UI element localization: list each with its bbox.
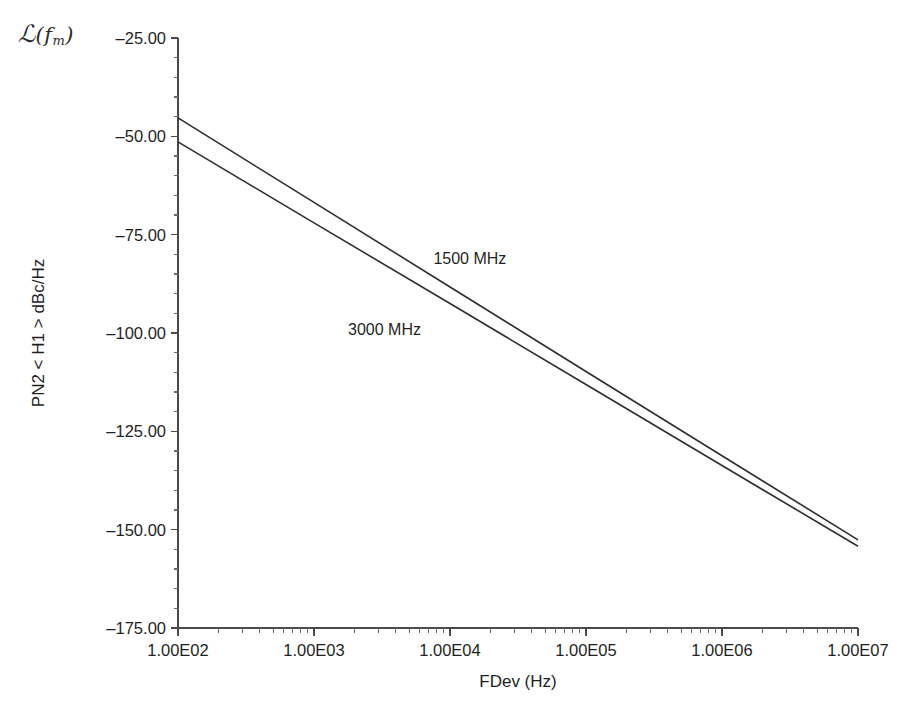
x-tick-label: 1.00E07 bbox=[827, 641, 888, 659]
y-tick-label: –50.00 bbox=[116, 127, 166, 145]
curve-annotations: 1500 MHz3000 MHz bbox=[348, 250, 506, 338]
y-tick-label: –150.00 bbox=[106, 521, 166, 539]
x-tick-label: 1.00E02 bbox=[147, 641, 208, 659]
series-group bbox=[178, 118, 858, 546]
x-tick-label: 1.00E04 bbox=[419, 641, 480, 659]
x-tick-label: 1.00E06 bbox=[691, 641, 752, 659]
y-tick-label: –75.00 bbox=[116, 226, 166, 244]
axis-spines bbox=[178, 38, 858, 628]
y-tick-label: –175.00 bbox=[106, 619, 166, 637]
axes-group: –25.00–50.00–75.00–100.00–125.00–150.00–… bbox=[106, 29, 888, 659]
page-scan-artifact bbox=[300, 690, 860, 702]
curve-label: 1500 MHz bbox=[433, 250, 506, 267]
y-tick-label: –25.00 bbox=[116, 29, 166, 47]
x-tick-label: 1.00E03 bbox=[283, 641, 344, 659]
x-tick-label: 1.00E05 bbox=[555, 641, 616, 659]
y-tick-label: –100.00 bbox=[106, 324, 166, 342]
phase-noise-figure: ℒ(fm) –25.00–50.00–75.00–100.00–125.00–1… bbox=[0, 0, 899, 710]
chart-canvas: –25.00–50.00–75.00–100.00–125.00–150.00–… bbox=[0, 0, 899, 710]
y-tick-label: –125.00 bbox=[106, 422, 166, 440]
curve-label: 3000 MHz bbox=[348, 321, 421, 338]
series-line-3000-mhz bbox=[178, 142, 858, 546]
y-axis-title: PN2 < H1 > dBc/Hz bbox=[29, 259, 48, 407]
x-axis-title: FDev (Hz) bbox=[479, 672, 556, 691]
series-line-1500-mhz bbox=[178, 118, 858, 540]
